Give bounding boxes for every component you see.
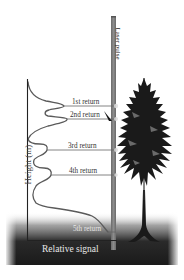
return-label-2: 2nd return	[70, 112, 100, 119]
y-axis-label: Height (m)	[24, 135, 33, 195]
return-label-3: 3rd return	[68, 143, 97, 150]
arrow-icon	[104, 111, 112, 121]
laser-pulse-label: Laser pulse	[114, 18, 121, 70]
x-axis-label: Relative signal	[42, 245, 99, 255]
return-label-5: 5th return	[73, 226, 101, 233]
lidar-diagram: Laser pulse 1st return 2nd return 3rd re…	[0, 0, 184, 280]
return-label-1: 1st return	[72, 99, 99, 106]
return-label-4: 4th return	[69, 168, 97, 175]
